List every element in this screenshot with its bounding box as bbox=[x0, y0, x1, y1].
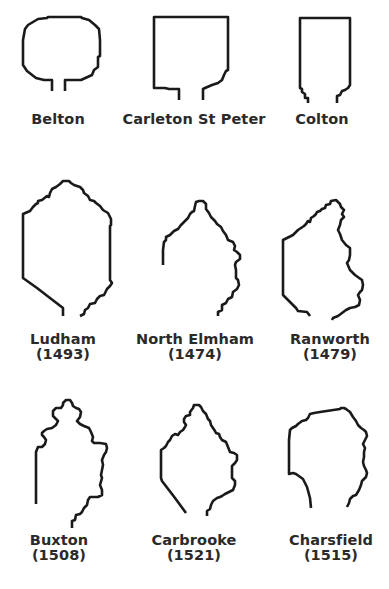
charsfield-profile-shape bbox=[289, 408, 367, 508]
charsfield-label: Charsfield (1515) bbox=[289, 533, 373, 563]
carbrooke-name: Carbrooke bbox=[151, 533, 236, 548]
ludham-profile-shape bbox=[23, 181, 112, 316]
belton-label: Belton bbox=[31, 112, 85, 127]
ranworth-name: Ranworth bbox=[290, 332, 370, 347]
ranworth-label: Ranworth (1479) bbox=[290, 332, 370, 362]
belton-name: Belton bbox=[31, 112, 85, 127]
north-elmham-name: North Elmham bbox=[136, 332, 254, 347]
ranworth-year: (1479) bbox=[290, 347, 370, 362]
carbrooke-year: (1521) bbox=[151, 548, 236, 563]
buxton-label: Buxton (1508) bbox=[30, 533, 89, 563]
buxton-name: Buxton bbox=[30, 533, 89, 548]
buxton-year: (1508) bbox=[30, 548, 89, 563]
charsfield-year: (1515) bbox=[289, 548, 373, 563]
colton-profile-shape bbox=[300, 18, 350, 103]
north-elmham-profile-shape bbox=[163, 201, 240, 316]
carbrooke-label: Carbrooke (1521) bbox=[151, 533, 236, 563]
colton-label: Colton bbox=[295, 112, 348, 127]
north-elmham-label: North Elmham (1474) bbox=[136, 332, 254, 362]
belton-profile-shape bbox=[23, 17, 100, 91]
north-elmham-year: (1474) bbox=[136, 347, 254, 362]
buxton-profile-shape bbox=[36, 400, 107, 528]
ludham-label: Ludham (1493) bbox=[30, 332, 96, 362]
carleton-st-peter-name: Carleton St Peter bbox=[122, 112, 265, 127]
carbrooke-profile-shape bbox=[161, 405, 237, 516]
carleton-st-peter-label: Carleton St Peter bbox=[122, 112, 265, 127]
ranworth-profile-shape bbox=[283, 200, 363, 320]
ludham-year: (1493) bbox=[30, 347, 96, 362]
carleton-st-peter-profile-shape bbox=[154, 17, 228, 100]
charsfield-name: Charsfield bbox=[289, 533, 373, 548]
ludham-name: Ludham bbox=[30, 332, 96, 347]
profiles-diagram bbox=[0, 0, 389, 589]
colton-name: Colton bbox=[295, 112, 348, 127]
